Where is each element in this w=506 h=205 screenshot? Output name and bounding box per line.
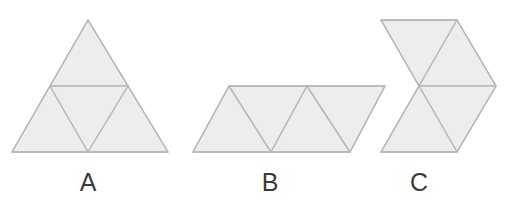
figure-stage: A B C	[0, 0, 506, 205]
figure-label-b: B	[262, 170, 279, 195]
figure-label-a: A	[80, 170, 97, 195]
triangle-figures-svg	[0, 0, 506, 205]
figure-label-c: C	[410, 170, 428, 195]
